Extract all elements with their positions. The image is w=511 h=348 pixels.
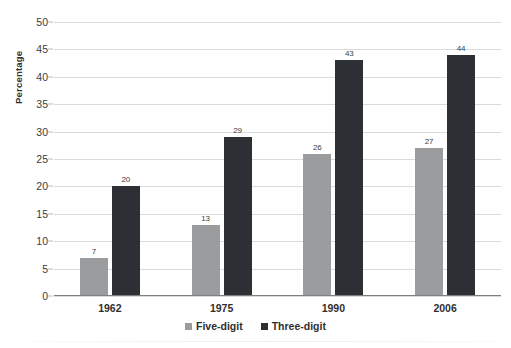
bar-five-digit-1990[interactable]: 26	[303, 154, 331, 296]
plot-area: 05101520253035404550 7201962132919752643…	[54, 22, 501, 296]
y-tick-label: 45	[36, 43, 48, 55]
bar-three-digit-2006[interactable]: 44	[447, 55, 475, 296]
y-tick-label: 50	[36, 16, 48, 28]
legend-item[interactable]: Three-digit	[261, 320, 326, 332]
y-tick-label: 0	[42, 290, 48, 302]
bar-group: 27442006	[389, 22, 501, 296]
chart-legend: Five-digitThree-digit	[0, 320, 511, 332]
y-tick-mark	[48, 104, 53, 105]
x-tick-label: 1975	[210, 302, 233, 314]
bar-group: 7201962	[54, 22, 166, 296]
bar-value-label: 43	[345, 49, 354, 58]
bar-value-label: 26	[313, 143, 322, 152]
bar-value-label: 44	[457, 44, 466, 53]
scan-artifact	[30, 341, 501, 342]
y-axis-title: Percentage	[13, 0, 27, 104]
y-tick-label: 15	[36, 208, 48, 220]
bar-chart: Percentage 05101520253035404550 72019621…	[0, 0, 511, 348]
y-tick-mark	[48, 76, 53, 77]
y-tick-label: 10	[36, 235, 48, 247]
x-tick-label: 2006	[433, 302, 456, 314]
x-tick-label: 1962	[98, 302, 121, 314]
legend-swatch-icon	[261, 323, 268, 330]
x-axis-line	[54, 295, 501, 296]
gridline	[54, 296, 501, 297]
bar-value-label: 13	[201, 214, 210, 223]
y-tick-mark	[48, 22, 53, 23]
y-tick-mark	[48, 49, 53, 50]
bar-three-digit-1962[interactable]: 20	[112, 186, 140, 296]
bar-value-label: 27	[425, 137, 434, 146]
y-tick-mark	[48, 159, 53, 160]
y-tick-label: 35	[36, 98, 48, 110]
y-tick-label: 40	[36, 71, 48, 83]
legend-label: Three-digit	[272, 320, 326, 332]
bar-five-digit-1975[interactable]: 13	[192, 225, 220, 296]
bar-three-digit-1975[interactable]: 29	[224, 137, 252, 296]
y-tick-mark	[48, 213, 53, 214]
bar-value-label: 20	[121, 175, 130, 184]
bar-three-digit-1990[interactable]: 43	[335, 60, 363, 296]
legend-label: Five-digit	[196, 320, 243, 332]
y-tick-label: 30	[36, 126, 48, 138]
bar-value-label: 29	[233, 126, 242, 135]
bar-group: 13291975	[166, 22, 278, 296]
bar-five-digit-2006[interactable]: 27	[415, 148, 443, 296]
bar-five-digit-1962[interactable]: 7	[80, 258, 108, 296]
y-tick-mark	[48, 241, 53, 242]
y-tick-label: 20	[36, 180, 48, 192]
y-tick-mark	[48, 131, 53, 132]
y-tick-mark	[48, 186, 53, 187]
y-tick-label: 5	[42, 263, 48, 275]
bar-group: 26431990	[278, 22, 390, 296]
y-tick-mark	[48, 296, 53, 297]
y-tick-label: 25	[36, 153, 48, 165]
legend-swatch-icon	[185, 323, 192, 330]
bar-value-label: 7	[92, 247, 96, 256]
y-tick-mark	[48, 268, 53, 269]
x-tick-label: 1990	[322, 302, 345, 314]
legend-item[interactable]: Five-digit	[185, 320, 243, 332]
